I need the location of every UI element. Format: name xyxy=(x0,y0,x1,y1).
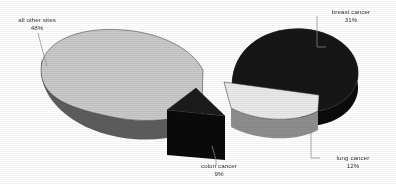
label-all-other-sites-percent: 48% xyxy=(6,24,68,32)
slice-colon-side xyxy=(167,110,225,160)
label-breast-cancer-name: breast cancer xyxy=(332,8,371,15)
label-all-other-sites: all other sites 48% xyxy=(6,16,68,31)
label-colon-cancer: colon cancer 9% xyxy=(186,162,252,177)
label-lung-cancer: lung cancer 12% xyxy=(318,154,388,169)
pie-chart: all other sites 48% breast cancer 31% lu… xyxy=(0,0,396,184)
label-colon-cancer-percent: 9% xyxy=(186,170,252,178)
label-lung-cancer-percent: 12% xyxy=(318,162,388,170)
label-colon-cancer-name: colon cancer xyxy=(201,162,237,169)
label-breast-cancer-percent: 31% xyxy=(316,16,386,24)
label-lung-cancer-name: lung cancer xyxy=(337,154,370,161)
label-breast-cancer: breast cancer 31% xyxy=(316,8,386,23)
label-all-other-sites-name: all other sites xyxy=(18,16,56,23)
